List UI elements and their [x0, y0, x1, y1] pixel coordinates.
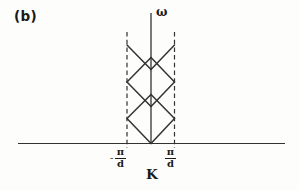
fraction-denominator: d: [117, 159, 124, 170]
branch-3-left-segment: [127, 82, 151, 107]
branch-2-right-segment: [151, 95, 175, 119]
fraction-numerator: π: [117, 147, 124, 158]
branch-4-left-segment: [127, 58, 151, 83]
band-diagram-figure: (b) ω K - π d π d: [0, 0, 299, 190]
branch-4-right-segment: [151, 58, 175, 83]
panel-label: (b): [14, 10, 37, 24]
x-tick-label-left: - π d: [110, 147, 126, 169]
x-tick-label-right: π d: [165, 147, 176, 169]
fraction-denominator: d: [167, 159, 174, 170]
fraction-stack-right: π d: [165, 147, 176, 169]
minus-sign: -: [110, 152, 113, 164]
omega-axis-label: ω: [156, 6, 167, 18]
branch-3-right-segment: [151, 82, 175, 107]
k-axis-label: K: [146, 168, 158, 182]
fraction-numerator: π: [167, 147, 174, 158]
fraction-stack-left: π d: [115, 147, 126, 169]
branch-5-left-segment: [127, 45, 151, 70]
branch-1-left-segment: [127, 119, 151, 144]
branch-5-right-segment: [151, 45, 175, 70]
branch-2-left-segment: [127, 95, 151, 119]
branch-1-right-segment: [151, 119, 175, 144]
figure-canvas: [0, 0, 299, 190]
